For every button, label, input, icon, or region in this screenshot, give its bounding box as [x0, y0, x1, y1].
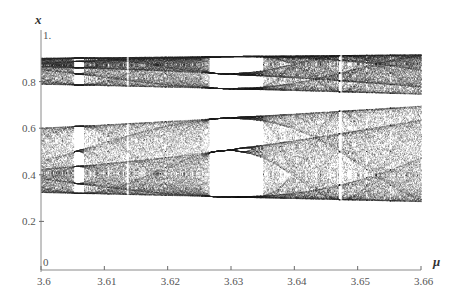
bifurcation-chart: 3.63.613.623.633.643.653.66 00.20.40.60.… [0, 0, 460, 297]
y-axis-title: x [34, 12, 42, 27]
x-tick-label: 3.64 [287, 275, 307, 287]
x-tick-label: 3.62 [161, 275, 180, 287]
x-axis-title: μ [432, 254, 440, 269]
periodic-window-line [127, 45, 129, 205]
scatter-points [41, 45, 422, 205]
y-tick-label: 0.4 [22, 169, 36, 181]
y-tick-label: 0.6 [22, 122, 36, 134]
periodic-window-line [340, 45, 342, 205]
y-tick-label: 0.8 [22, 76, 36, 88]
x-tick-label: 3.6 [37, 275, 51, 287]
bifurcation-points [41, 55, 422, 202]
x-tick-label: 3.63 [224, 275, 244, 287]
y-tick-label: 1. [43, 29, 52, 41]
y-tick-label: 0.2 [22, 215, 36, 227]
x-tick-label: 3.61 [97, 275, 116, 287]
x-tick-label: 3.65 [351, 275, 371, 287]
x-tick-label: 3.66 [414, 275, 434, 287]
x-axis-ticks: 3.63.613.623.633.643.653.66 [37, 266, 434, 287]
y-tick-label: 0 [43, 256, 49, 268]
